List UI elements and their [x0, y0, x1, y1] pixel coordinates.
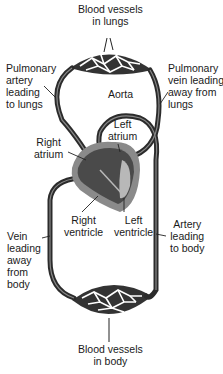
label-body-vessels: Blood vessels in body [78, 343, 143, 367]
label-line: ventricle [64, 226, 103, 238]
label-line: Right [34, 136, 63, 148]
label-line: vein leading [168, 74, 223, 86]
label-line: Left [108, 118, 137, 130]
label-left-atrium: Left atrium [108, 118, 137, 142]
label-artery-to-body: Artery leading to body [170, 218, 204, 254]
label-pulmonary-artery: Pulmonary artery leading to lungs [6, 62, 56, 110]
label-line: to body [170, 242, 204, 254]
body-capillary-bed [72, 285, 152, 342]
label-line: Right [64, 214, 103, 226]
label-left-ventricle: Left ventricle [114, 214, 153, 238]
label-line: lungs [168, 98, 223, 110]
label-line: body [7, 278, 41, 290]
label-line: in lungs [78, 15, 143, 27]
label-right-atrium: Right atrium [34, 136, 63, 160]
lung-capillary-bed [70, 38, 152, 75]
label-line: atrium [108, 130, 137, 142]
label-line: Pulmonary [6, 62, 56, 74]
label-line: Aorta [108, 88, 133, 100]
label-aorta: Aorta [108, 88, 133, 100]
label-line: atrium [34, 148, 63, 160]
label-line: Artery [170, 218, 204, 230]
label-line: ventricle [114, 226, 153, 238]
label-lung-vessels: Blood vessels in lungs [78, 3, 143, 27]
label-vein-from-body: Vein leading away from body [7, 230, 41, 290]
label-line: away from [168, 86, 223, 98]
label-line: Blood vessels [78, 3, 143, 15]
label-line: leading [170, 230, 204, 242]
label-right-ventricle: Right ventricle [64, 214, 103, 238]
label-line: away [7, 254, 41, 266]
circulatory-system-diagram [0, 0, 223, 374]
label-line: to lungs [6, 98, 56, 110]
label-line: Left [114, 214, 153, 226]
label-line: leading [7, 242, 41, 254]
label-line: Pulmonary [168, 62, 223, 74]
label-line: Vein [7, 230, 41, 242]
label-line: from [7, 266, 41, 278]
label-line: Blood vessels [78, 343, 143, 355]
label-pulmonary-vein: Pulmonary vein leading away from lungs [168, 62, 223, 110]
label-line: leading [6, 86, 56, 98]
heart [72, 142, 140, 212]
label-line: in body [78, 355, 143, 367]
label-line: artery [6, 74, 56, 86]
